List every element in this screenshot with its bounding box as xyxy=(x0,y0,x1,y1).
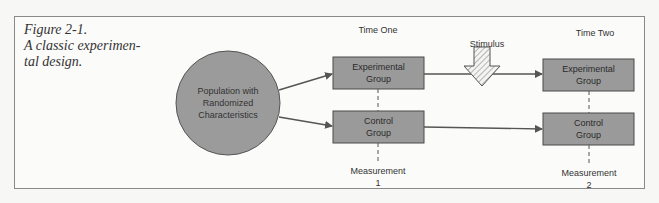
population-label: Population with Randomized Characteristi… xyxy=(183,85,273,121)
experimental-group-label-1: Experimental Group xyxy=(333,57,424,89)
experimental-group-label-2: Experimental Group xyxy=(543,59,634,91)
arrow-control-1-to-2 xyxy=(424,127,542,129)
arrow-to-control-1 xyxy=(279,117,332,126)
measurement-2-label: Measurement 2 xyxy=(554,167,624,191)
control-group-label-2: Control Group xyxy=(543,113,634,145)
arrow-to-experimental-1 xyxy=(279,74,332,90)
time-two-header: Time Two xyxy=(565,27,625,39)
stimulus-arrow-icon xyxy=(464,47,500,86)
measurement-1-label: Measurement 1 xyxy=(343,165,413,189)
time-one-header: Time One xyxy=(348,24,408,36)
stimulus-label: Stimulus xyxy=(457,38,517,50)
control-group-label-1: Control Group xyxy=(333,111,424,143)
